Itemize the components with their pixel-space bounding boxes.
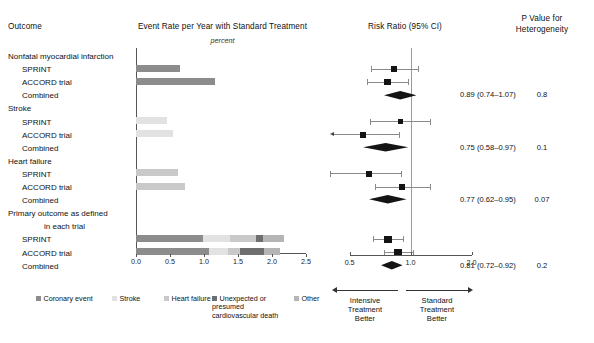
- row-label: Combined: [22, 144, 58, 153]
- bar-segment: [136, 169, 178, 176]
- row-label: Nonfatal myocardial infarction: [8, 52, 113, 61]
- bar-axis-tick-label: 2.5: [295, 257, 317, 266]
- row-label: Combined: [22, 91, 58, 100]
- legend-swatch-icon: [164, 296, 169, 301]
- legend-label: Coronary event: [44, 294, 93, 303]
- row-label: Stroke: [8, 104, 31, 113]
- confidence-interval-cap: [367, 79, 368, 85]
- p-value-heterogeneity: 0.1: [527, 143, 557, 152]
- risk-ratio-value: 0.77 (0.62–0.95): [460, 195, 516, 204]
- confidence-interval-cap: [430, 184, 431, 190]
- confidence-interval-cap: [375, 184, 376, 190]
- row-label: SPRINT: [22, 235, 51, 244]
- confidence-interval-cap: [399, 132, 400, 138]
- column-header-outcome: Outcome: [8, 22, 42, 32]
- left-direction-label-line1: Intensive: [330, 296, 400, 305]
- forest-reference-line: [411, 48, 412, 255]
- point-estimate-square: [399, 184, 405, 190]
- right-direction-line: [406, 290, 468, 291]
- bar-segment: [136, 235, 203, 242]
- forest-axis-tick: [472, 252, 473, 255]
- forest-axis-tick: [411, 252, 412, 255]
- row-label: ACCORD trial: [22, 249, 72, 258]
- confidence-interval-cap: [418, 66, 419, 72]
- point-estimate-square: [384, 236, 392, 244]
- bar-segment: [230, 235, 256, 242]
- confidence-interval-cap: [370, 119, 371, 125]
- legend-item: Stroke: [112, 295, 160, 303]
- forest-axis-line: [350, 255, 472, 256]
- legend-item: Coronary event: [36, 295, 106, 303]
- legend-swatch-icon: [294, 296, 299, 301]
- legend-label: Unexpected or presumed cardiovascular de…: [212, 294, 278, 320]
- left-direction-label-line2: Treatment: [330, 305, 400, 314]
- legend-swatch-icon: [212, 296, 217, 301]
- legend-item: Heart failure: [164, 295, 212, 303]
- confidence-interval-cap: [430, 119, 431, 125]
- bar-axis-tick-label: 2.0: [261, 257, 283, 266]
- point-estimate-square: [384, 79, 391, 86]
- bar-units-label: percent: [130, 36, 315, 45]
- bar-axis-tick-label: 1.5: [227, 257, 249, 266]
- legend-label: Heart failure: [172, 294, 211, 303]
- bar-segment: [136, 183, 185, 190]
- row-label: ACCORD trial: [22, 78, 72, 87]
- confidence-interval-cap: [401, 171, 402, 177]
- right-arrow-icon: [468, 287, 473, 293]
- left-direction-label-line3: Better: [330, 314, 400, 323]
- right-direction-label-line1: Standard: [402, 296, 472, 305]
- bar-segment: [209, 248, 228, 255]
- legend-label: Stroke: [120, 294, 141, 303]
- left-direction-line: [336, 290, 398, 291]
- row-label: SPRINT: [22, 170, 51, 179]
- bar-axis-tick-label: 0.5: [159, 257, 181, 266]
- bar-axis-tick-label: 0.0: [125, 257, 147, 266]
- confidence-interval-cap: [373, 236, 374, 242]
- forest-plot-figure: Outcome Event Rate per Year with Standar…: [0, 0, 594, 343]
- bar-segment: [203, 235, 230, 242]
- point-estimate-square: [391, 66, 397, 72]
- summary-diamond: [383, 90, 417, 101]
- confidence-interval-cap: [403, 236, 404, 242]
- risk-ratio-value: 0.75 (0.58–0.97): [460, 143, 516, 152]
- column-header-p-value-line2: Heterogeneity: [495, 25, 589, 35]
- row-label: SPRINT: [22, 118, 51, 127]
- column-header-event-rate: Event Rate per Year with Standard Treatm…: [130, 22, 315, 32]
- summary-diamond: [362, 142, 409, 153]
- forest-plot-panel: 0.51.02.0: [330, 48, 480, 260]
- point-estimate-square: [366, 171, 372, 177]
- bar-segment: [256, 235, 263, 242]
- legend-swatch-icon: [36, 296, 41, 301]
- bar-segment: [263, 235, 283, 242]
- row-label: SPRINT: [22, 65, 51, 74]
- confidence-interval-cap: [330, 171, 331, 177]
- p-value-heterogeneity: 0.8: [527, 90, 557, 99]
- row-label: ACCORD trial: [22, 131, 72, 140]
- risk-ratio-value: 0.81 (0.72–0.92): [460, 261, 516, 270]
- p-value-heterogeneity: 0.07: [527, 195, 557, 204]
- bar-segment: [136, 130, 173, 137]
- confidence-interval-line: [334, 134, 399, 135]
- row-label: Heart failure: [8, 157, 52, 166]
- ci-left-arrow-icon: [330, 132, 334, 136]
- right-direction-label-line3: Better: [402, 314, 472, 323]
- column-header-risk-ratio: Risk Ratio (95% CI): [330, 22, 480, 32]
- bar-segment: [136, 248, 209, 255]
- bar-segment: [136, 78, 215, 85]
- legend-item: Unexpected or presumed cardiovascular de…: [212, 295, 290, 320]
- p-value-heterogeneity: 0.2: [527, 261, 557, 270]
- legend-label: Other: [302, 294, 320, 303]
- column-header-p-value-line1: P Value for: [495, 14, 589, 24]
- bar-chart-panel: 0.00.51.01.52.02.5: [136, 48, 306, 258]
- risk-ratio-value: 0.89 (0.74–1.07): [460, 90, 516, 99]
- row-label: Combined: [22, 262, 58, 271]
- confidence-interval-cap: [408, 79, 409, 85]
- bar-axis-tick-label: 1.0: [193, 257, 215, 266]
- row-label: ACCORD trial: [22, 183, 72, 192]
- row-label: Combined: [22, 196, 58, 205]
- summary-diamond: [368, 194, 408, 205]
- forest-axis-tick-label: 1.0: [400, 258, 422, 267]
- row-label: Primary outcome as defined: [8, 209, 108, 218]
- point-estimate-square: [360, 132, 366, 138]
- confidence-interval-cap: [371, 66, 372, 72]
